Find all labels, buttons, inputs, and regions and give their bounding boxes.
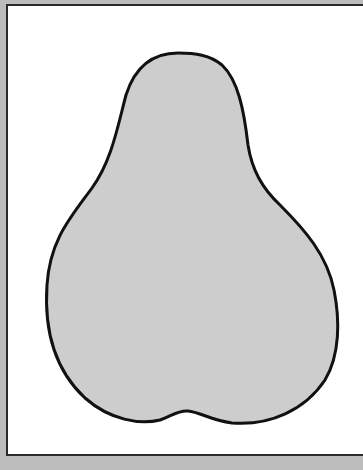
pear-outline [47,53,338,423]
pear-shape-icon [0,0,363,470]
canvas [0,0,363,470]
